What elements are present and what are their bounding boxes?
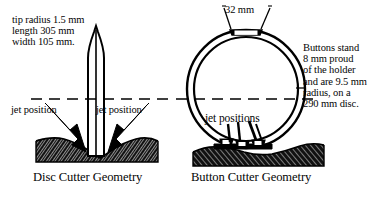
jet-positions-label: jet positions: [205, 113, 260, 124]
caption-button-cutter: Button Cutter Geometry: [191, 172, 311, 183]
buttons-bottom: [214, 139, 272, 149]
button-top: [230, 30, 262, 35]
cutter-disc-outer: [187, 30, 305, 148]
disc-cutter-blade: [88, 26, 104, 156]
caption-disc-cutter: Disc Cutter Geometry: [33, 172, 142, 183]
disc-cutter-specs: tip radius 1.5 mm length 305 mm width 10…: [12, 14, 84, 48]
figure-canvas: tip radius 1.5 mm length 305 mm width 10…: [0, 0, 388, 200]
jet-position-label-right: jet position: [96, 104, 142, 115]
dimension-label-32mm: 32 mm: [225, 4, 254, 15]
cutter-disc-inner: [194, 37, 298, 141]
button-cutter-notes: Buttons stand 8 mm proud of the holder a…: [303, 42, 367, 109]
jet-position-label-left: jet position: [11, 104, 57, 115]
